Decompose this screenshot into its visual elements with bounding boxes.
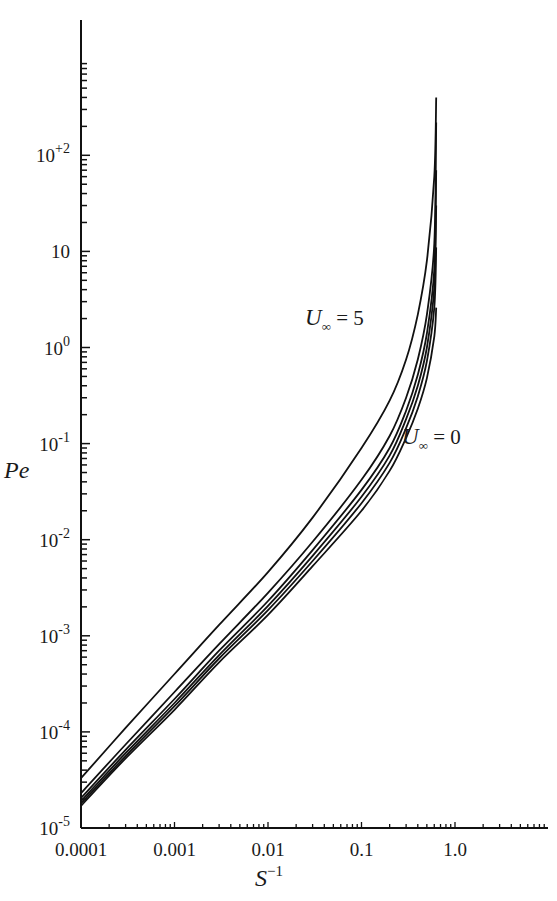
- x-tick-label: 0.001: [153, 839, 196, 860]
- curve-series-2: [81, 170, 436, 798]
- y-tick-label: 10-2: [39, 526, 70, 551]
- y-tick-label: 10+2: [36, 141, 70, 166]
- y-axis-title: Pe: [3, 457, 30, 483]
- x-tick-label: 0.1: [350, 839, 374, 860]
- y-tick-label: 10-5: [39, 814, 70, 839]
- y-tick-labels: 10+21010010-110-210-310-410-5: [36, 141, 70, 839]
- x-axis-title: S−1: [255, 863, 283, 891]
- y-tick-label: 10-3: [39, 622, 70, 647]
- y-tick-label: 100: [44, 334, 70, 359]
- chart: 0.00010.0010.010.11.0 10+21010010-110-21…: [0, 0, 557, 901]
- y-tick-label: 10-4: [39, 718, 70, 743]
- x-tick-label: 0.01: [251, 839, 284, 860]
- axis-ticks: [81, 64, 544, 828]
- annotation-u-inf-5: U∞ = 5: [305, 305, 364, 334]
- data-curves: [81, 97, 436, 806]
- curve-series-3: [81, 206, 436, 802]
- curve-series-0: [81, 97, 436, 778]
- annotation-u-inf-0: U∞ = 0: [402, 424, 461, 453]
- x-tick-labels: 0.00010.0010.010.11.0: [55, 839, 467, 860]
- curve-series-5: [81, 308, 436, 806]
- y-tick-label: 10: [51, 241, 70, 262]
- x-tick-label: 1.0: [443, 839, 467, 860]
- y-tick-label: 10-1: [39, 430, 70, 455]
- curve-series-4: [81, 247, 436, 803]
- axes: [81, 20, 548, 828]
- x-tick-label: 0.0001: [55, 839, 107, 860]
